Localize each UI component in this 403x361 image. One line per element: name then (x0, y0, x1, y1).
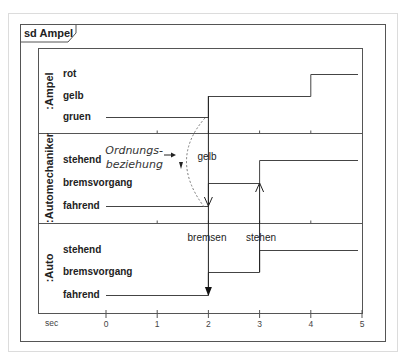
message-label-gelb: gelb (198, 151, 217, 162)
axis-tick-label: 0 (104, 319, 109, 329)
timing-diagram: sd Ampel :Ampel :Automechaniker :Auto ro… (0, 0, 403, 361)
message-label-bremsen: bremsen (188, 232, 227, 243)
state-label: fahrend (63, 200, 100, 211)
frame-label: sd Ampel (24, 27, 73, 39)
state-label: gruen (63, 111, 91, 122)
axis-tick-label: 1 (155, 319, 160, 329)
lifeline-label-ampel: :Ampel (43, 72, 55, 109)
annotation-line2: beziehung (106, 158, 163, 171)
lifeline-label-automechaniker: :Automechaniker (43, 132, 55, 223)
state-label: fahrend (63, 289, 100, 300)
state-label: rot (63, 68, 77, 79)
lifeline-label-auto: :Auto (43, 253, 55, 282)
axis-tick-label: 4 (308, 319, 313, 329)
axis-tick-label: 3 (257, 319, 262, 329)
axis-tick-label: 5 (360, 319, 365, 329)
state-label: gelb (63, 90, 84, 101)
message-label-stehen: stehen (246, 232, 276, 243)
state-label: bremsvorgang (63, 177, 132, 188)
state-label: stehend (63, 244, 101, 255)
axis-tick-label: 2 (206, 319, 211, 329)
axis-unit-label: sec (45, 318, 59, 328)
state-label: bremsvorgang (63, 266, 132, 277)
state-label: stehend (63, 154, 101, 165)
annotation-line1: Ordnungs- (105, 144, 163, 157)
